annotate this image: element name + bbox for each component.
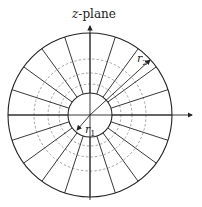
plane-title: z-plane	[71, 7, 116, 21]
z-plane-diagram: z-plane r1 r2	[0, 0, 202, 207]
